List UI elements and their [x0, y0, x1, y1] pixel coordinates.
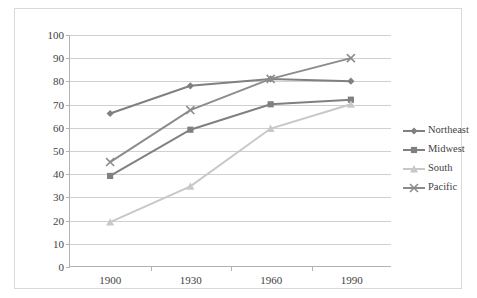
plot-area: 0102030405060708090100 1900193019601990	[69, 35, 391, 267]
legend-item-pacific[interactable]: Pacific	[403, 178, 477, 197]
series-midwest	[107, 97, 354, 179]
square-marker	[107, 173, 113, 179]
y-axis-tick-mark	[66, 267, 70, 268]
legend-label: Pacific	[428, 182, 457, 193]
series-line	[110, 79, 351, 114]
y-axis-tick-label: 100	[48, 30, 65, 41]
y-axis-tick-label: 70	[53, 99, 64, 110]
y-axis-tick-label: 90	[53, 53, 64, 64]
y-axis-tick-label: 0	[59, 262, 65, 273]
legend-label: Midwest	[428, 144, 465, 155]
legend-swatch	[403, 144, 425, 156]
diamond-marker	[347, 78, 354, 85]
series-south	[106, 100, 355, 225]
series-pacific	[106, 54, 355, 166]
diamond-marker	[410, 127, 417, 134]
legend-swatch	[403, 163, 425, 175]
legend-cross-icon	[407, 182, 421, 194]
series-line	[110, 58, 351, 162]
diamond-marker	[187, 82, 194, 89]
legend-triangle-icon	[407, 163, 421, 175]
legend-item-northeast[interactable]: Northeast	[403, 121, 477, 140]
x-axis-tick-mark	[151, 266, 152, 271]
square-marker	[187, 127, 193, 133]
chart-legend: NortheastMidwestSouthPacific	[403, 121, 477, 197]
series-layer	[70, 35, 391, 266]
y-axis-tick-label: 50	[53, 146, 64, 157]
legend-square-icon	[407, 144, 421, 156]
series-line	[110, 104, 351, 222]
cross-marker	[106, 158, 114, 166]
legend-diamond-icon	[407, 125, 421, 137]
legend-item-midwest[interactable]: Midwest	[403, 140, 477, 159]
x-axis-tick-label: 1900	[99, 275, 121, 286]
legend-label: Northeast	[428, 125, 469, 136]
cross-marker	[186, 106, 194, 114]
cross-marker	[410, 184, 418, 192]
y-axis-tick-label: 20	[53, 215, 64, 226]
y-axis-tick-label: 60	[53, 122, 64, 133]
legend-swatch	[403, 125, 425, 137]
y-axis-tick-label: 10	[53, 238, 64, 249]
triangle-marker	[410, 165, 418, 172]
y-axis-tick-label: 80	[53, 76, 64, 87]
chart-frame: 0102030405060708090100 1900193019601990 …	[14, 8, 462, 289]
x-axis-tick-mark	[312, 266, 313, 271]
y-axis-tick-label: 30	[53, 192, 64, 203]
x-axis-tick-label: 1960	[260, 275, 282, 286]
x-axis-tick-mark	[231, 266, 232, 271]
legend-label: South	[428, 163, 453, 174]
legend-swatch	[403, 182, 425, 194]
legend-item-south[interactable]: South	[403, 159, 477, 178]
x-axis-tick-label: 1930	[180, 275, 202, 286]
series-northeast	[107, 75, 355, 117]
y-axis-tick-label: 40	[53, 169, 64, 180]
diamond-marker	[107, 110, 114, 117]
square-marker	[268, 101, 274, 107]
square-marker	[411, 146, 417, 152]
x-axis-tick-label: 1990	[341, 275, 363, 286]
